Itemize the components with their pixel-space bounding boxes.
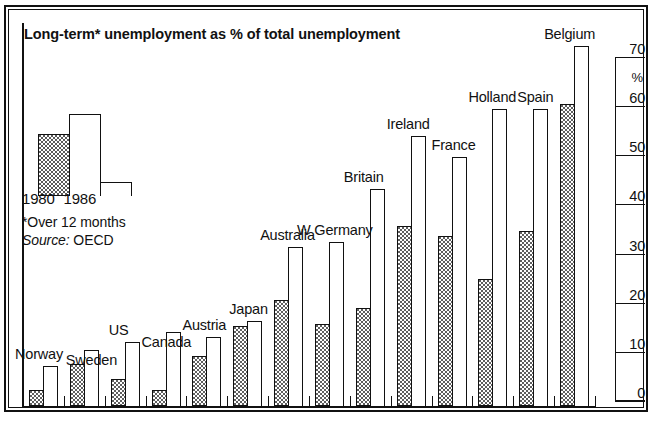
axis-tick-label: 60 — [629, 91, 645, 105]
bar-group: Austria — [187, 35, 228, 406]
country-label: Japan — [229, 302, 268, 317]
value-axis: 706050403020100% — [607, 45, 651, 403]
bar-group: Ireland — [392, 35, 433, 406]
axis-tick-mark — [615, 303, 645, 304]
axis-tick-mark — [615, 155, 645, 156]
bar-1980 — [70, 364, 85, 406]
bar-group: W Germany — [310, 35, 351, 406]
bar-1980 — [478, 279, 493, 406]
country-label: Belgium — [544, 27, 595, 42]
bar-1980 — [29, 390, 44, 406]
x-axis-baseline — [22, 406, 596, 408]
bar-1980 — [519, 231, 534, 406]
bar-1986 — [574, 46, 589, 406]
bar-1980 — [233, 326, 248, 406]
bar-group: Sweden — [65, 35, 106, 406]
bar-1986 — [533, 109, 548, 406]
chart-figure: Long-term* unemployment as % of total un… — [0, 0, 656, 423]
bar-group: Spain — [514, 35, 555, 406]
country-label: US — [109, 323, 129, 338]
bar-1986 — [288, 247, 303, 406]
bar-1980 — [315, 324, 330, 406]
axis-tick-label: 30 — [629, 239, 645, 253]
bar-group: Canada — [147, 35, 188, 406]
bar-group: Britain — [351, 35, 392, 406]
bar-group: Holland — [473, 35, 514, 406]
bar-1986 — [370, 189, 385, 406]
axis-tick-mark — [615, 106, 645, 107]
country-label: Ireland — [387, 117, 430, 132]
country-label: Austria — [182, 318, 226, 333]
plot-area: NorwaySwedenUSCanadaAustriaJapanAustrali… — [22, 23, 596, 408]
bar-1986 — [452, 157, 467, 406]
bar-1986 — [43, 366, 58, 406]
axis-tick-mark — [615, 352, 645, 353]
bar-group: Australia — [269, 35, 310, 406]
bar-1980 — [274, 300, 289, 406]
bar-group: Belgium — [555, 35, 596, 406]
axis-tick-label: 40 — [629, 189, 645, 203]
axis-tick-label: 10 — [629, 337, 645, 351]
bar-1986 — [411, 136, 426, 406]
country-label: Spain — [517, 90, 553, 105]
bar-1980 — [397, 226, 412, 406]
bar-1986 — [125, 342, 140, 406]
bar-1986 — [492, 109, 507, 406]
bar-group: Norway — [24, 35, 65, 406]
bar-1980 — [356, 308, 371, 406]
axis-tick-label: 0 — [637, 386, 645, 400]
country-label: Norway — [15, 347, 63, 362]
axis-tick-mark — [615, 254, 645, 255]
bar-1986 — [206, 337, 221, 406]
bar-1980 — [438, 236, 453, 406]
bar-group: US — [106, 35, 147, 406]
bar-1986 — [329, 242, 344, 406]
country-label: Britain — [344, 170, 384, 185]
group-separator — [595, 396, 596, 406]
bar-group: France — [433, 35, 474, 406]
axis-tick-mark — [615, 401, 645, 402]
country-label: Canada — [142, 335, 192, 350]
bar-1980 — [560, 104, 575, 406]
bar-1980 — [192, 356, 207, 406]
axis-tick-label: 50 — [629, 140, 645, 154]
axis-tick-mark — [615, 204, 645, 205]
country-label: Holland — [468, 90, 516, 105]
axis-unit-label: % — [631, 71, 643, 84]
bar-1986 — [247, 321, 262, 406]
axis-tick-label: 20 — [629, 288, 645, 302]
bar-series-container: NorwaySwedenUSCanadaAustriaJapanAustrali… — [24, 35, 596, 406]
country-label: France — [432, 138, 476, 153]
bar-1980 — [111, 379, 126, 406]
axis-tick-label: 70 — [629, 42, 645, 56]
bar-group: Japan — [228, 35, 269, 406]
bar-1980 — [152, 390, 167, 406]
